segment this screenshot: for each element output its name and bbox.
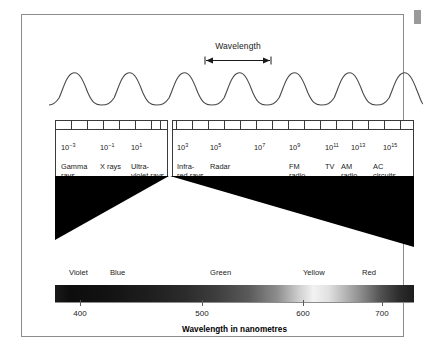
em-band-infrared: 103 Infra-red rays bbox=[177, 133, 204, 181]
visible-light-expansion-funnel bbox=[55, 176, 414, 254]
color-label-green: Green bbox=[210, 268, 231, 277]
wavelength-axis-line bbox=[55, 302, 414, 303]
color-label-violet: Violet bbox=[69, 268, 88, 277]
color-label-red: Red bbox=[362, 268, 376, 277]
em-band-box-long-wavelength: 103 Infra-red rays 105 Radar 107 109 FMr… bbox=[172, 120, 414, 177]
em-band-gamma: 10−3 Gammarays bbox=[61, 133, 87, 181]
visible-spectrum-bar bbox=[55, 285, 414, 302]
em-band-am-radio-exponent: 1013 bbox=[351, 143, 365, 152]
electromagnetic-spectrum-figure: Wavelength 10−3 Gamm bbox=[0, 0, 430, 355]
em-band-tv-label: TV bbox=[325, 162, 334, 171]
em-band-radar: 105 Radar bbox=[210, 133, 230, 171]
em-band-uv: 101 Ultra-violet rays bbox=[131, 133, 164, 181]
em-band-microwave-exponent: 107 bbox=[254, 143, 265, 152]
axis-tick-500 bbox=[202, 300, 203, 306]
em-band-radar-label: Radar bbox=[210, 162, 230, 171]
band-tick-row-right bbox=[173, 121, 413, 130]
em-band-uv-exponent: 101 bbox=[131, 143, 142, 152]
axis-tick-600 bbox=[303, 300, 304, 306]
figure-frame: Wavelength 10−3 Gamm bbox=[21, 14, 404, 337]
axis-tick-label-600: 600 bbox=[296, 309, 309, 318]
wavelength-double-arrow bbox=[204, 56, 272, 65]
axis-tick-700 bbox=[382, 300, 383, 306]
em-band-fm-radio: 109 FMradio bbox=[289, 133, 305, 181]
em-band-tv-exponent: 1011 bbox=[325, 143, 339, 152]
em-band-ac-circuits: 1015 AC circuits bbox=[383, 133, 413, 181]
em-band-box-short-wavelength: 10−3 Gammarays 10−1 X rays 101 Ultra-vio… bbox=[55, 120, 168, 177]
color-label-blue: Blue bbox=[110, 268, 125, 277]
page-corner-marker bbox=[414, 10, 421, 24]
em-band-radar-exponent: 105 bbox=[210, 143, 221, 152]
wavelength-label: Wavelength bbox=[197, 41, 279, 51]
em-band-tv: 1011 TV bbox=[325, 133, 339, 171]
axis-tick-400 bbox=[80, 300, 81, 306]
band-tick-row-left bbox=[56, 121, 167, 130]
color-label-yellow: Yellow bbox=[303, 268, 325, 277]
axis-title: Wavelength in nanometres bbox=[55, 325, 414, 334]
sine-wave-graphic bbox=[49, 65, 423, 110]
em-band-xrays-label: X rays bbox=[100, 162, 121, 171]
axis-tick-label-500: 500 bbox=[195, 309, 208, 318]
axis-tick-label-700: 700 bbox=[375, 309, 388, 318]
em-band-am-radio: 1013 AMradio bbox=[351, 133, 367, 181]
em-band-gamma-exponent: 10−3 bbox=[61, 143, 75, 152]
em-band-microwave: 107 bbox=[254, 133, 265, 152]
em-band-ac-circuits-exponent: 1015 bbox=[383, 143, 397, 152]
em-band-infrared-exponent: 103 bbox=[177, 143, 188, 152]
em-band-xrays: 10−1 X rays bbox=[100, 133, 121, 171]
em-band-xrays-exponent: 10−1 bbox=[100, 143, 114, 152]
axis-tick-label-400: 400 bbox=[73, 309, 86, 318]
em-band-fm-radio-exponent: 109 bbox=[289, 143, 300, 152]
